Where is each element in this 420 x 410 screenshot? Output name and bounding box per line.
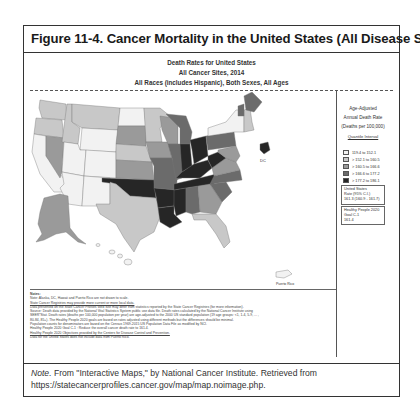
us-rate-value: 161.3 (160.9 - 161.7)	[344, 197, 382, 202]
legend-title-2: Annual Death Rate	[337, 113, 389, 122]
legend-title-1: Age-Adjusted	[337, 104, 389, 113]
legend-item-label: > 166.6 to 177.2	[352, 172, 380, 176]
state-ks	[116, 160, 154, 180]
state-fl	[192, 214, 230, 248]
legend-swatch	[343, 164, 349, 170]
map-header-line3: All Races (includes Hispanic), Both Sexe…	[24, 78, 399, 88]
hawaii-island	[96, 244, 100, 247]
healthy-people-value: 161.4	[344, 218, 382, 223]
state-ar	[154, 188, 176, 208]
legend: Age-Adjusted Annual Death Rate (Deaths p…	[336, 90, 389, 357]
legend-item: > 166.6 to 177.2	[343, 170, 389, 177]
us-choropleth-map: DC Puerto Rico	[30, 92, 330, 288]
map-header: Death Rates for United States All Cancer…	[24, 56, 399, 88]
us-rate-box: United States Rate (95% C.I.) 161.3 (160…	[341, 185, 385, 205]
state-me	[244, 92, 262, 112]
puerto-rico-inset	[276, 270, 292, 278]
puerto-rico-label: Puerto Rico	[276, 282, 294, 286]
state-dc-inset	[260, 142, 270, 154]
state-sd	[116, 126, 146, 146]
map-notes: Notes: Note: Alaska, DC, Hawaii and Puer…	[30, 289, 336, 339]
state-nd	[118, 108, 146, 126]
caption-note-label: Note.	[31, 368, 52, 378]
hawaii-island	[118, 254, 123, 258]
legend-swatch	[343, 150, 349, 156]
figure-title: Figure 11-4. Cancer Mortality in the Uni…	[24, 26, 399, 53]
dc-label: DC	[260, 158, 266, 163]
legend-item: > 160.5 to 166.6	[343, 163, 389, 170]
legend-item: > 152.1 to 160.5	[343, 156, 389, 163]
caption-text: From "Interactive Maps," by National Can…	[31, 368, 317, 390]
legend-item-label: > 177.2 to 186.1	[352, 179, 380, 183]
legend-item-label: > 152.1 to 160.5	[352, 158, 380, 162]
legend-items: 119.4 to 152.1 > 152.1 to 160.5 > 160.5 …	[337, 149, 389, 184]
map-header-line1: Death Rates for United States	[24, 58, 399, 68]
state-al	[186, 186, 200, 214]
figure-caption: Note. From "Interactive Maps," by Nation…	[24, 363, 399, 391]
quantile-interval-link[interactable]: Quantile Interval	[337, 133, 389, 141]
legend-swatch	[343, 178, 349, 184]
state-ne	[116, 144, 152, 162]
legend-swatch	[343, 157, 349, 163]
legend-item-label: 119.4 to 152.1	[352, 151, 376, 155]
map-header-line2: All Cancer Sites, 2014	[24, 68, 399, 78]
legend-item: 119.4 to 152.1	[343, 149, 389, 156]
legend-title-3: (Deaths per 100,000)	[337, 122, 389, 131]
legend-item-label: > 160.5 to 166.6	[352, 165, 380, 169]
state-ms	[174, 188, 186, 216]
state-oh	[190, 136, 208, 164]
notes-line: Data for the United States does not incl…	[30, 335, 336, 339]
state-mt	[72, 104, 120, 130]
figure-container: Figure 11-4. Cancer Mortality in the Uni…	[23, 25, 400, 397]
state-hi	[109, 250, 115, 254]
hawaii-island	[124, 259, 132, 265]
legend-item: > 177.2 to 186.1	[343, 177, 389, 184]
state-co	[84, 150, 116, 178]
legend-swatch	[343, 171, 349, 177]
state-vt	[238, 104, 244, 116]
state-wy	[80, 128, 118, 152]
state-wa	[39, 100, 67, 120]
healthy-people-box: Healthy People 2020 Goal C-1 161.4	[341, 206, 385, 226]
